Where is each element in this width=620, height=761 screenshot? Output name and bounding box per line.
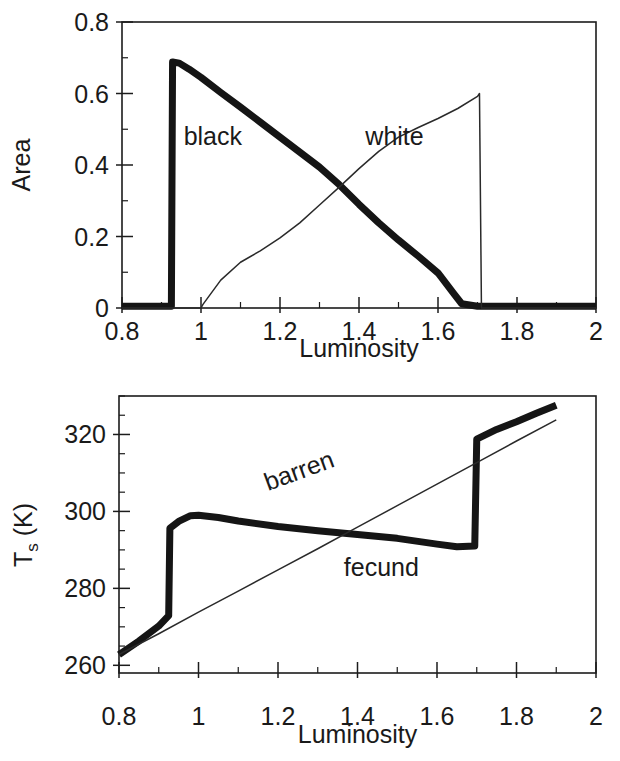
svg-text:fecund: fecund [344, 553, 419, 581]
y-tick-label: 0.8 [74, 8, 109, 36]
series-fecund [119, 405, 556, 654]
x-tick-label: 1.8 [500, 317, 535, 345]
series-label-barren: barren [260, 445, 337, 496]
x-tick-label: 1.8 [499, 702, 534, 730]
y-tick-label: 320 [64, 420, 106, 448]
series-black [122, 62, 596, 306]
x-tick-label: 2 [589, 702, 603, 730]
series-label-white: white [364, 122, 423, 150]
y-tick-label: 280 [64, 574, 106, 602]
area-panel: 0.811.21.41.61.8200.20.40.60.8Luminosity… [0, 0, 620, 380]
x-tick-label: 1.6 [420, 702, 455, 730]
x-tick-label: 1.6 [421, 317, 456, 345]
y-axis-title: Area [7, 139, 35, 192]
x-tick-label: 2 [589, 317, 603, 345]
x-axis-title: Luminosity [298, 720, 418, 748]
y-tick-label: 0 [95, 294, 109, 322]
series-label-fecund: fecund [344, 553, 419, 581]
x-tick-label: 1.2 [261, 702, 296, 730]
svg-text:Ts (K): Ts (K) [9, 503, 42, 567]
area-plot-svg: 0.811.21.41.61.8200.20.40.60.8Luminosity… [0, 0, 620, 380]
y-tick-label: 300 [64, 497, 106, 525]
svg-text:black: black [184, 122, 243, 150]
y-tick-label: 0.6 [74, 80, 109, 108]
y-tick-label: 260 [64, 651, 106, 679]
x-axis-title: Luminosity [299, 334, 419, 362]
x-tick-label: 0.8 [102, 702, 137, 730]
x-tick-label: 1 [192, 702, 206, 730]
series-label-black: black [184, 122, 243, 150]
temperature-plot-svg: 0.811.21.41.61.82260280300320LuminosityT… [0, 380, 620, 761]
y-tick-label: 0.4 [74, 151, 109, 179]
svg-text:Area: Area [7, 139, 35, 192]
x-tick-label: 0.8 [105, 317, 140, 345]
plot-frame [122, 22, 596, 308]
svg-text:white: white [364, 122, 423, 150]
y-tick-label: 0.2 [74, 223, 109, 251]
temperature-panel: 0.811.21.41.61.82260280300320LuminosityT… [0, 380, 620, 761]
daisyworld-figure: 0.811.21.41.61.8200.20.40.60.8Luminosity… [0, 0, 620, 761]
y-axis-title: Ts (K) [9, 503, 42, 567]
svg-text:barren: barren [260, 445, 337, 496]
series-barren [119, 420, 556, 655]
x-tick-label: 1 [194, 317, 208, 345]
x-tick-label: 1.2 [263, 317, 298, 345]
